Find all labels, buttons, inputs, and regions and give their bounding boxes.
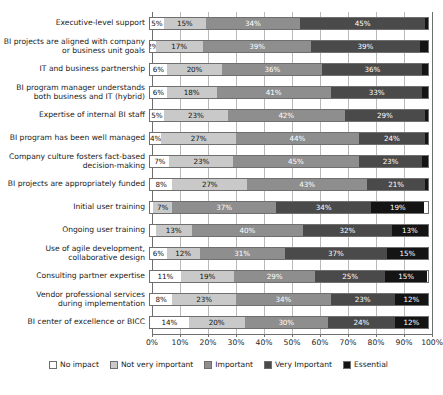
chart-row: BI projects are appropriately funded8%27… <box>0 173 437 196</box>
bar-segment[interactable]: 36% <box>222 64 322 75</box>
bar-segment[interactable]: 27% <box>172 179 247 190</box>
bar-segment[interactable]: 34% <box>236 294 331 305</box>
bar-segment[interactable] <box>425 179 428 190</box>
axis-tick-label: 50% <box>284 338 301 347</box>
category-label: IT and business partnership <box>0 65 149 74</box>
bar-segment[interactable] <box>425 18 428 29</box>
bar-segment[interactable] <box>422 87 428 98</box>
bar-segment[interactable]: 23% <box>169 156 233 167</box>
bar-segment[interactable]: 42% <box>228 110 345 121</box>
bar-segment[interactable]: 5% <box>150 110 164 121</box>
bar-segment[interactable]: 23% <box>331 294 395 305</box>
axis-tick-label: 20% <box>200 338 217 347</box>
bar-segment[interactable]: 7% <box>153 202 173 213</box>
legend-item[interactable]: No impact <box>49 360 99 369</box>
stacked-bar[interactable]: 7%23%45%23% <box>149 155 429 168</box>
bar-segment[interactable]: 13% <box>392 225 428 236</box>
bar-segment[interactable]: 34% <box>276 202 371 213</box>
axis-tick <box>208 334 209 337</box>
stacked-bar[interactable]: 13%40%32%13% <box>149 224 429 237</box>
bar-segment[interactable]: 24% <box>359 133 426 144</box>
bar-segment[interactable]: 29% <box>345 110 426 121</box>
bar-segment[interactable] <box>422 156 428 167</box>
bar-segment[interactable]: 15% <box>387 248 428 259</box>
bar-segment[interactable]: 12% <box>167 248 200 259</box>
bar-segment[interactable]: 19% <box>371 202 424 213</box>
bar-segment[interactable]: 39% <box>311 41 419 52</box>
bar-segment[interactable]: 32% <box>303 225 392 236</box>
bar-segment[interactable]: 8% <box>150 179 172 190</box>
stacked-bar[interactable]: 11%19%29%25%15% <box>149 270 429 283</box>
bar-segment[interactable]: 45% <box>300 18 425 29</box>
bar-segment[interactable]: 45% <box>233 156 358 167</box>
bar-segment[interactable]: 20% <box>189 317 245 328</box>
bar-segment[interactable]: 19% <box>181 271 234 282</box>
bar-segment[interactable]: 23% <box>164 110 228 121</box>
bar-segment[interactable]: 5% <box>150 18 164 29</box>
bar-segment[interactable]: 18% <box>167 87 217 98</box>
stacked-bar[interactable]: 2%17%39%39% <box>149 40 429 53</box>
bar-segment[interactable]: 11% <box>150 271 181 282</box>
bar-segment[interactable]: 36% <box>322 64 422 75</box>
category-label: Use of agile development, collaborative … <box>0 245 149 262</box>
bar-segment[interactable]: 41% <box>217 87 331 98</box>
bar-segment[interactable]: 14% <box>150 317 189 328</box>
stacked-bar[interactable]: 6%20%36%36% <box>149 63 429 76</box>
bar-segment[interactable]: 15% <box>385 271 427 282</box>
bar-segment[interactable]: 15% <box>164 18 206 29</box>
bar-segment[interactable]: 8% <box>150 294 172 305</box>
bar-segment[interactable] <box>420 41 428 52</box>
bar-segment[interactable]: 29% <box>234 271 315 282</box>
legend-item[interactable]: Important <box>204 360 253 369</box>
bar-segment[interactable] <box>425 110 428 121</box>
chart-row: Company culture fosters fact-based decis… <box>0 150 437 173</box>
bar-segment[interactable]: 24% <box>328 317 395 328</box>
bar-segment[interactable]: 12% <box>395 317 428 328</box>
bar-segment[interactable]: 6% <box>150 64 167 75</box>
stacked-bar[interactable]: 6%12%31%37%15% <box>149 247 429 260</box>
stacked-bar[interactable]: 5%15%34%45% <box>149 17 429 30</box>
bar-track: 5%23%42%29% <box>149 109 437 122</box>
bar-segment[interactable]: 27% <box>161 133 236 144</box>
legend-item[interactable]: Not very important <box>110 360 193 369</box>
bar-segment[interactable]: 34% <box>206 18 301 29</box>
bar-segment[interactable] <box>425 133 428 144</box>
bar-segment[interactable]: 37% <box>172 202 276 213</box>
bar-segment[interactable]: 6% <box>150 87 167 98</box>
bar-segment[interactable]: 4% <box>150 133 161 144</box>
bar-segment[interactable]: 20% <box>167 64 223 75</box>
bar-segment[interactable]: 7% <box>150 156 169 167</box>
bar-segment[interactable]: 30% <box>245 317 328 328</box>
legend-swatch-icon <box>264 361 272 369</box>
stacked-bar[interactable]: 5%23%42%29% <box>149 109 429 122</box>
axis-tick <box>432 334 433 337</box>
bar-segment[interactable]: 40% <box>192 225 303 236</box>
bar-segment[interactable]: 21% <box>367 179 425 190</box>
bar-segment[interactable]: 12% <box>395 294 428 305</box>
axis-tick-label: 30% <box>228 338 245 347</box>
bar-segment[interactable]: 37% <box>285 248 387 259</box>
bar-segment[interactable]: 33% <box>331 87 423 98</box>
legend-item[interactable]: Very Important <box>264 360 332 369</box>
bar-track: 8%27%43%21% <box>149 178 437 191</box>
bar-segment[interactable]: 43% <box>247 179 367 190</box>
legend-item[interactable]: Essential <box>343 360 388 369</box>
bar-segment[interactable]: 23% <box>172 294 236 305</box>
stacked-bar[interactable]: 8%23%34%23%12% <box>149 293 429 306</box>
bar-segment[interactable]: 6% <box>150 248 167 259</box>
bar-segment[interactable]: 17% <box>156 41 203 52</box>
bar-segment[interactable]: 44% <box>236 133 358 144</box>
bar-segment[interactable]: 13% <box>156 225 192 236</box>
bar-segment[interactable]: 25% <box>315 271 385 282</box>
bar-segment[interactable]: 39% <box>203 41 311 52</box>
stacked-bar[interactable]: 8%27%43%21% <box>149 178 429 191</box>
bar-segment[interactable]: 31% <box>200 248 285 259</box>
stacked-bar[interactable]: 14%20%30%24%12% <box>149 316 429 329</box>
stacked-bar[interactable]: 7%37%34%19% <box>149 201 429 214</box>
axis-tick <box>152 334 153 337</box>
stacked-bar[interactable]: 6%18%41%33% <box>149 86 429 99</box>
bar-segment[interactable]: 23% <box>359 156 423 167</box>
legend-label: Important <box>215 360 253 369</box>
bar-segment[interactable] <box>422 64 428 75</box>
stacked-bar[interactable]: 4%27%44%24% <box>149 132 429 145</box>
